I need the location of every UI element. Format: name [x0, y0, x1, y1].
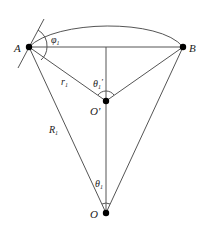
label-theta1: θ1 — [95, 178, 103, 190]
point-o-prime — [103, 98, 109, 104]
geometry-diagram: A B O' O φ1 r1 R1 θ1' θ1 — [0, 0, 208, 233]
label-r1: r1 — [61, 76, 68, 88]
label-b: B — [189, 42, 196, 54]
label-o: O — [90, 208, 98, 220]
point-b — [180, 44, 186, 50]
label-r-big-1: R1 — [48, 124, 58, 136]
segment-b-o — [106, 47, 183, 213]
label-theta1-prime: θ1' — [93, 77, 104, 90]
segment-a-oprime — [29, 47, 106, 101]
tangent-line-a — [18, 19, 44, 68]
label-o-prime: O' — [90, 105, 101, 117]
point-o — [103, 210, 109, 216]
segment-b-oprime — [106, 47, 183, 101]
label-phi1: φ1 — [51, 34, 60, 46]
angle-arc-phi1 — [38, 30, 47, 60]
label-a: A — [13, 42, 21, 54]
point-a — [26, 44, 32, 50]
diagram-canvas: A B O' O φ1 r1 R1 θ1' θ1 — [0, 0, 208, 233]
